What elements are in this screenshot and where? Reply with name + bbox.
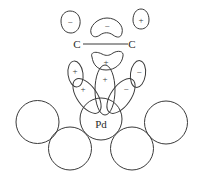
orbital-sign: − xyxy=(136,67,141,77)
pi-star-orbital-right-lobe: + xyxy=(133,9,149,29)
surface-atom-far-right xyxy=(145,101,188,144)
palladium-label: Pd xyxy=(95,118,107,130)
orbital-diagram: − − + C C + + + xyxy=(0,0,203,185)
carbon-carbon-bond: C C xyxy=(73,38,135,50)
orbital-sign: + xyxy=(72,66,77,76)
orbital-sign: − xyxy=(123,84,128,94)
pi-orbital-top-lobe: − xyxy=(91,18,123,37)
orbital-sign: − xyxy=(67,17,72,27)
surface-atoms: Pd xyxy=(16,98,188,170)
carbon-atom-right: C xyxy=(128,38,135,50)
d-orbital-right-small-lobe: − xyxy=(129,60,148,89)
d-orbital-vertical: + xyxy=(95,65,115,115)
orbital-sign: + xyxy=(80,84,85,94)
pi-orbital-bottom-lobe: + xyxy=(92,51,124,70)
carbon-atom-left: C xyxy=(73,38,80,50)
d-orbital-left-tilted-lobe: + xyxy=(67,74,106,118)
pi-star-orbital-left-lobe: − xyxy=(61,11,80,33)
orbital-sign: + xyxy=(102,74,107,84)
surface-atom-far-left xyxy=(16,101,59,144)
orbital-sign: − xyxy=(104,21,109,31)
orbital-sign: + xyxy=(138,15,143,25)
surface-atom-left xyxy=(49,127,92,170)
